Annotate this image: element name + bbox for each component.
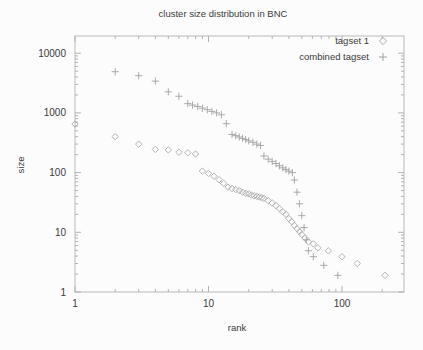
data-point-plus — [303, 236, 310, 243]
data-point-diamond — [302, 235, 308, 241]
figure-cluster-size-distribution: cluster size distribution in BNC 1101001… — [0, 0, 423, 350]
data-point-plus — [194, 103, 201, 110]
legend: tagset 1 combined tagset — [299, 33, 389, 64]
data-point-plus — [293, 189, 300, 196]
data-point-plus — [291, 176, 298, 183]
data-point-diamond — [152, 146, 158, 152]
data-point-plus — [112, 68, 119, 75]
series-combined-tagset — [112, 68, 342, 279]
data-point-plus — [310, 253, 317, 260]
data-point-plus — [223, 120, 230, 127]
data-point-plus — [260, 152, 267, 159]
data-point-diamond — [339, 254, 345, 260]
y-tick-label: 10000 — [38, 48, 66, 59]
data-point-diamond — [185, 150, 191, 156]
data-point-plus — [228, 131, 235, 138]
data-point-diamond — [269, 200, 275, 206]
legend-item-tagset-1: tagset 1 — [299, 33, 389, 48]
data-point-plus — [232, 132, 239, 139]
data-point-plus — [165, 88, 172, 95]
data-point-diamond — [211, 173, 217, 179]
data-point-plus — [257, 142, 264, 149]
y-axis-label: size — [15, 157, 26, 174]
data-point-plus — [236, 133, 243, 140]
x-tick-label: 1 — [72, 298, 78, 309]
data-point-diamond — [199, 168, 205, 174]
data-point-plus — [204, 106, 211, 113]
data-point-plus — [213, 109, 220, 116]
y-tick-label: 1000 — [44, 107, 67, 118]
x-axis-label: rank — [228, 322, 246, 333]
data-point-plus — [305, 247, 312, 254]
legend-item-combined-tagset: combined tagset — [299, 49, 389, 64]
data-point-plus — [218, 111, 225, 118]
data-point-plus — [242, 136, 249, 143]
data-point-plus — [289, 169, 296, 176]
data-point-diamond — [382, 272, 388, 278]
data-point-plus — [152, 78, 159, 85]
x-tick-label: 100 — [334, 298, 351, 309]
data-point-diamond — [325, 248, 331, 254]
data-point-plus — [249, 139, 256, 146]
data-point-plus — [296, 200, 303, 207]
x-tick-label: 10 — [203, 298, 215, 309]
plot-box — [75, 36, 404, 292]
data-point-plus — [208, 108, 215, 115]
data-point-plus — [334, 272, 341, 279]
data-point-plus — [282, 166, 289, 173]
data-point-plus — [184, 100, 191, 107]
data-point-diamond — [354, 260, 360, 266]
data-point-plus — [320, 262, 327, 269]
data-point-diamond — [315, 245, 321, 251]
data-point-plus — [253, 141, 260, 148]
y-tick-label: 1 — [60, 287, 66, 298]
series-tagset-1 — [72, 121, 388, 279]
y-tick-label: 10 — [55, 227, 67, 238]
data-point-diamond — [112, 133, 118, 139]
data-point-diamond — [165, 147, 171, 153]
data-point-diamond — [265, 197, 271, 203]
legend-label: combined tagset — [299, 51, 369, 62]
data-point-plus — [135, 72, 142, 79]
data-point-plus — [298, 212, 305, 219]
data-point-plus — [199, 105, 206, 112]
data-point-diamond — [273, 202, 279, 208]
data-point-diamond — [176, 149, 182, 155]
data-point-plus — [175, 93, 182, 100]
data-point-plus — [189, 102, 196, 109]
data-point-diamond — [276, 205, 282, 211]
data-point-diamond — [205, 170, 211, 176]
diamond-marker-icon — [377, 35, 389, 47]
y-tick-label: 100 — [49, 167, 66, 178]
data-point-diamond — [192, 151, 198, 157]
data-point-plus — [285, 167, 292, 174]
plus-marker-icon — [377, 51, 389, 63]
legend-label: tagset 1 — [335, 35, 369, 46]
data-point-diamond — [135, 141, 141, 147]
